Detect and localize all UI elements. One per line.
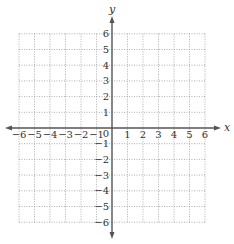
y-tick-label: −5 [94,201,109,212]
coordinate-plane: −6−5−4−3−2−1123456 654321−1−2−3−4−5−6 x … [0,0,234,244]
x-axis-label: x [224,121,231,134]
x-tick-label: −5 [27,129,42,140]
x-tick-label: 5 [186,129,192,140]
x-tick-label: −2 [74,129,89,140]
x-tick-label: −4 [43,129,58,140]
x-tick-label: 3 [155,129,161,140]
origin-label: 0 [103,128,109,139]
x-tick-label: 6 [202,129,208,140]
y-tick-label: −4 [94,185,109,196]
y-tick-label: −6 [94,217,109,228]
x-tick-label: −6 [12,129,27,140]
x-tick-label: 4 [171,129,177,140]
x-axis-right-arrow-icon [214,126,221,131]
y-axis-down-arrow-icon [110,232,115,239]
x-tick-labels: −6−5−4−3−2−1123456 [12,129,209,140]
y-tick-label: −2 [94,154,109,165]
x-tick-label: 1 [124,129,130,140]
y-tick-label: 5 [103,44,109,55]
x-tick-label: 2 [140,129,146,140]
y-axis-label: y [108,3,116,16]
x-tick-label: −3 [58,129,73,140]
y-tick-label: 3 [103,75,109,86]
y-axis-up-arrow-icon [110,16,115,23]
y-tick-label: 6 [103,28,109,39]
y-tick-label: −3 [94,170,109,181]
y-tick-label: −1 [94,138,109,149]
y-tick-label: 2 [103,91,109,102]
y-tick-label: 1 [103,107,109,118]
y-tick-label: 4 [103,60,109,71]
